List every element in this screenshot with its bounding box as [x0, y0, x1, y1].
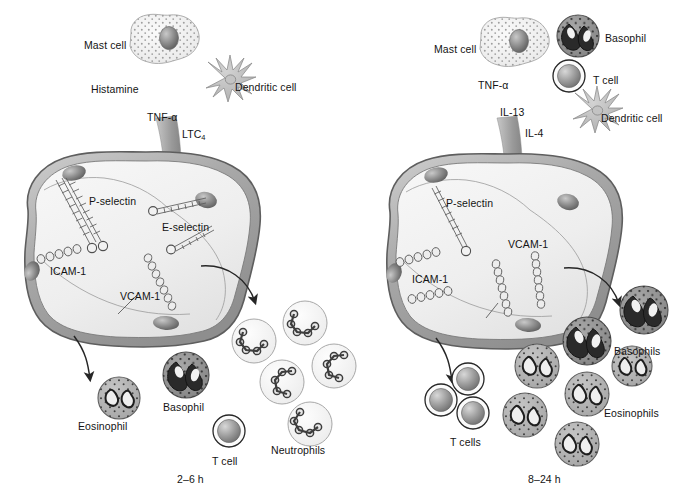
- label-tnf-alpha-left: TNF-α: [147, 112, 177, 123]
- eosinophil-icon: [515, 344, 559, 388]
- label-icam-1-right: ICAM-1: [412, 274, 448, 285]
- label-basophils-right: Basophils: [614, 346, 660, 357]
- label-il-13: IL-13: [500, 107, 524, 118]
- mast-cell-icon: [130, 14, 199, 63]
- label-eosinophils-right: Eosinophils: [604, 408, 659, 419]
- label-eosinophil-left: Eosinophil: [78, 421, 127, 432]
- label-e-selectin-left: E-selectin: [162, 222, 209, 233]
- label-icam-1-left: ICAM-1: [50, 266, 86, 277]
- neutrophil-icon: [312, 344, 356, 388]
- t-cell-icon-legend: [553, 60, 585, 92]
- label-mast-cell-right: Mast cell: [434, 44, 476, 55]
- neutrophil-icon: [288, 402, 332, 446]
- label-basophil-legend-right: Basophil: [605, 33, 646, 44]
- eosinophil-icon: [503, 393, 547, 437]
- label-t-cells-right: T cells: [450, 437, 481, 448]
- eosinophil-icon: [565, 372, 609, 416]
- t-cell-icon: [457, 397, 489, 429]
- label-mast-cell-left: Mast cell: [84, 40, 126, 51]
- neutrophil-icons-left: [232, 301, 356, 446]
- label-histamine: Histamine: [91, 84, 139, 95]
- caption-right-panel: 8–24 h: [528, 474, 561, 485]
- label-t-cell-left: T cell: [212, 456, 238, 467]
- endothelial-cell-left: [22, 152, 261, 347]
- label-p-selectin-right: P-selectin: [446, 198, 493, 209]
- caption-left-panel: 2–6 h: [177, 474, 204, 485]
- label-p-selectin-left: P-selectin: [89, 196, 136, 207]
- t-cell-icon-left: [213, 415, 245, 447]
- label-vcam-1-right: VCAM-1: [508, 239, 548, 250]
- label-neutrophils: Neutrophils: [271, 445, 325, 456]
- label-vcam-1-left: VCAM-1: [120, 291, 160, 302]
- label-basophil-left: Basophil: [163, 402, 204, 413]
- eosinophil-icon: [555, 422, 599, 466]
- basophil-icon: [620, 286, 668, 334]
- basophil-icon-legend: [557, 15, 599, 57]
- label-t-cell-legend-right: T cell: [593, 75, 619, 86]
- label-dendritic-cell-right: Dendritic cell: [601, 113, 663, 124]
- label-tnf-alpha-right: TNF-α: [478, 80, 508, 91]
- label-ltc4-base: LTC: [182, 128, 201, 140]
- t-cell-icon: [425, 384, 457, 416]
- dendritic-cell-icon: [206, 55, 256, 102]
- eosinophil-icon-left: [98, 377, 140, 419]
- label-dendritic-cell-left: Dendritic cell: [235, 82, 297, 93]
- t-cell-icons-right: [425, 363, 489, 429]
- label-ltc4: LTC4: [182, 129, 206, 141]
- basophil-icon: [563, 317, 611, 365]
- allergic-inflammation-diagram: Mast cell Dendritic cell Histamine TNF-α…: [0, 0, 678, 497]
- dendritic-cell-icon: [573, 86, 623, 133]
- label-il-4: IL-4: [525, 128, 544, 139]
- t-cell-icon: [452, 363, 484, 395]
- mast-cell-icon: [480, 17, 549, 66]
- label-ltc4-subscript: 4: [201, 133, 205, 142]
- neutrophil-icon: [283, 301, 327, 345]
- neutrophil-icon: [232, 319, 276, 363]
- basophil-icon-left: [163, 352, 209, 398]
- neutrophil-icon: [260, 360, 304, 404]
